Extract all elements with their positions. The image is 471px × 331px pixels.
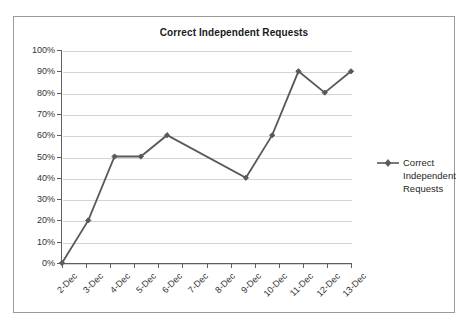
- category-axis-tick: [158, 263, 159, 268]
- category-axis-tick: [231, 263, 232, 268]
- series-line: [62, 71, 351, 263]
- category-axis-tick: [279, 263, 280, 268]
- value-axis-tick: [57, 242, 62, 243]
- value-axis-tick: [57, 157, 62, 158]
- value-axis-tick: [57, 93, 62, 94]
- category-axis-tick: [134, 263, 135, 268]
- value-axis-tick: [57, 220, 62, 221]
- category-axis-tick: [62, 263, 63, 268]
- value-axis-tick: [57, 199, 62, 200]
- series-data-point[interactable]: [112, 154, 117, 159]
- value-axis-tick: [57, 114, 62, 115]
- category-axis-tick: [327, 263, 328, 268]
- category-axis-tick: [207, 263, 208, 268]
- category-axis-tick: [86, 263, 87, 268]
- category-axis-tick: [303, 263, 304, 268]
- category-axis-tick: [110, 263, 111, 268]
- category-axis-tick: [255, 263, 256, 268]
- value-axis-tick: [57, 135, 62, 136]
- category-axis-tick: [351, 263, 352, 268]
- value-axis-tick: [57, 71, 62, 72]
- value-axis-tick: [57, 50, 62, 51]
- category-axis-tick: [182, 263, 183, 268]
- value-axis-tick: [57, 178, 62, 179]
